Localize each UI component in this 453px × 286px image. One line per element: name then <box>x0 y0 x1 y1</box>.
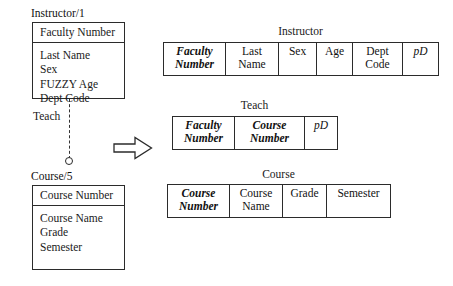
entity-attribute: Grade <box>40 225 124 239</box>
diagram-canvas: Instructor/1 Faculty Number Last Name Se… <box>0 0 453 286</box>
entity-key-course: Course Number <box>33 186 124 206</box>
table-title-teach: Teach <box>172 99 337 112</box>
cell-line: Number <box>166 58 223 71</box>
entity-label-course: Course/5 <box>31 170 73 183</box>
cell-line: Semester <box>329 187 388 200</box>
entity-attribute: Last Name <box>40 48 124 62</box>
cell-line: pD <box>405 45 436 58</box>
table-title-course: Course <box>167 168 390 181</box>
entity-attribute: FUZZY Age <box>40 77 124 91</box>
cell-line: Name <box>232 200 280 213</box>
cell-line: Course <box>170 187 227 200</box>
relational-table-instructor: Faculty Number Last Name Sex Age Dept Co… <box>163 42 439 76</box>
entity-attribute: Dept Code <box>40 91 124 105</box>
table-header-row: Course Number Course Name Grade Semester <box>168 185 391 218</box>
table-column-header: Course Number <box>235 117 305 150</box>
cell-line: Number <box>237 132 302 145</box>
relationship-endpoint-circle <box>65 157 73 165</box>
cell-line: Course <box>232 187 280 200</box>
table-header-row: Faculty Number Course Number pD <box>173 117 338 150</box>
table-column-header: Sex <box>279 43 317 76</box>
cell-line: pD <box>307 119 335 132</box>
cell-line: Age <box>319 45 350 58</box>
entity-box-course: Course Number Course Name Grade Semester <box>32 185 125 270</box>
cell-line: Number <box>175 132 232 145</box>
table-column-header: Semester <box>327 185 391 218</box>
table-title-instructor: Instructor <box>163 25 438 38</box>
cell-line: Faculty <box>175 119 232 132</box>
entity-label-instructor: Instructor/1 <box>31 7 85 20</box>
cell-line: Course <box>237 119 302 132</box>
table-column-header: Faculty Number <box>164 43 226 76</box>
entity-attribute: Course Name <box>40 211 124 225</box>
cell-line: Sex <box>281 45 314 58</box>
table-column-header: Faculty Number <box>173 117 235 150</box>
cell-line: Code <box>355 58 400 71</box>
entity-attribute: Semester <box>40 240 124 254</box>
table-header-row: Faculty Number Last Name Sex Age Dept Co… <box>164 43 439 76</box>
cell-line: Dept <box>355 45 400 58</box>
relational-table-teach: Faculty Number Course Number pD <box>172 116 338 150</box>
entity-box-instructor: Faculty Number Last Name Sex FUZZY Age D… <box>32 22 125 99</box>
table-column-header: Dept Code <box>353 43 403 76</box>
relationship-dashed-line <box>69 99 70 159</box>
entity-attributes-instructor: Last Name Sex FUZZY Age Dept Code <box>33 43 124 109</box>
cell-line: Name <box>228 58 276 71</box>
relationship-label-teach: Teach <box>33 110 60 123</box>
table-column-header: Course Number <box>168 185 230 218</box>
cell-line: Number <box>170 200 227 213</box>
cell-line: Last <box>228 45 276 58</box>
entity-attributes-course: Course Name Grade Semester <box>33 206 124 258</box>
table-column-header: Age <box>317 43 353 76</box>
relational-table-course: Course Number Course Name Grade Semester <box>167 184 391 218</box>
table-column-header: Course Name <box>230 185 283 218</box>
entity-key-instructor: Faculty Number <box>33 23 124 43</box>
table-column-header: pD <box>305 117 338 150</box>
cell-line: Grade <box>285 187 324 200</box>
table-column-header: pD <box>403 43 439 76</box>
table-column-header: Grade <box>283 185 327 218</box>
transform-arrow-right-icon <box>113 136 153 160</box>
cell-line: Faculty <box>166 45 223 58</box>
table-column-header: Last Name <box>226 43 279 76</box>
entity-attribute: Sex <box>40 62 124 76</box>
